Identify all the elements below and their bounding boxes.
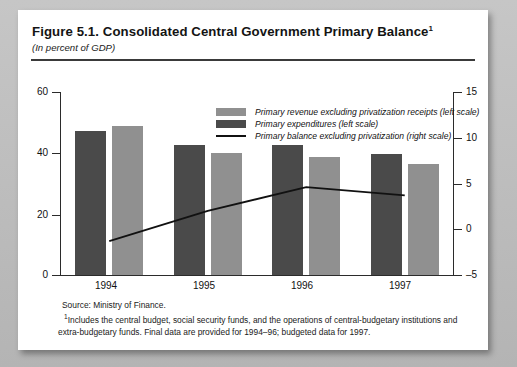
left-axis-label-0: 0 bbox=[22, 269, 48, 280]
x-axis-label-1995: 1995 bbox=[174, 280, 234, 291]
figure-notes: Source: Ministry of Finance. 1Includes t… bbox=[58, 300, 468, 338]
legend-swatch-revenue-icon bbox=[216, 108, 246, 116]
figure-title: Figure 5.1. Consolidated Central Governm… bbox=[32, 24, 433, 39]
right-tick-5 bbox=[454, 184, 462, 185]
legend-item-balance: Primary balance excluding privatization … bbox=[216, 130, 480, 141]
legend-item-expenditures: Primary expenditures (left scale) bbox=[216, 118, 480, 129]
right-tick-0 bbox=[454, 229, 462, 230]
right-axis-label-0: 0 bbox=[466, 223, 496, 234]
legend-swatch-expenditures-icon bbox=[216, 120, 246, 128]
left-tick-20 bbox=[52, 215, 60, 216]
left-tick-0 bbox=[52, 275, 60, 276]
footnote: 1Includes the central budget, social sec… bbox=[58, 311, 468, 338]
left-tick-60 bbox=[52, 92, 60, 93]
x-axis-label-1996: 1996 bbox=[272, 280, 332, 291]
legend-label-expenditures: Primary expenditures (left scale) bbox=[255, 119, 378, 129]
figure-title-text: Figure 5.1. Consolidated Central Governm… bbox=[32, 24, 429, 39]
left-tick-40 bbox=[52, 153, 60, 154]
legend-item-revenue: Primary revenue excluding privatization … bbox=[216, 106, 480, 117]
footnote-text: Includes the central budget, social secu… bbox=[58, 315, 457, 336]
figure-card: Figure 5.1. Consolidated Central Governm… bbox=[18, 10, 488, 350]
x-axis-line bbox=[60, 275, 454, 276]
title-divider bbox=[31, 59, 475, 61]
chart-legend: Primary revenue excluding privatization … bbox=[216, 106, 480, 142]
right-axis-label-15: 15 bbox=[466, 86, 496, 97]
right-tick-minus5 bbox=[454, 275, 462, 276]
left-axis-label-20: 20 bbox=[22, 209, 48, 220]
legend-label-revenue: Primary revenue excluding privatization … bbox=[255, 107, 480, 117]
right-axis-label-minus5: –5 bbox=[466, 269, 496, 280]
left-axis-label-60: 60 bbox=[22, 86, 48, 97]
x-axis-label-1994: 1994 bbox=[76, 280, 136, 291]
legend-label-balance: Primary balance excluding privatization … bbox=[255, 131, 451, 141]
right-tick-15 bbox=[454, 92, 462, 93]
right-axis-label-5: 5 bbox=[466, 178, 496, 189]
legend-swatch-balance-line-icon bbox=[216, 132, 246, 140]
left-axis-label-40: 40 bbox=[22, 147, 48, 158]
figure-title-superscript: 1 bbox=[429, 24, 434, 33]
source-note: Source: Ministry of Finance. bbox=[62, 300, 468, 311]
x-axis-label-1997: 1997 bbox=[370, 280, 430, 291]
balance-line-path bbox=[109, 187, 405, 241]
figure-subtitle: (In percent of GDP) bbox=[32, 42, 115, 53]
